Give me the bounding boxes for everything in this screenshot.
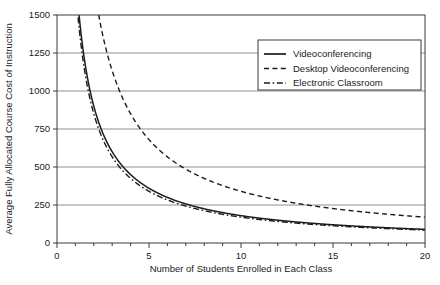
- legend-label-1: Desktop Videoconferencing: [293, 63, 409, 74]
- y-axis-tick-labels: 0250500750100012501500: [29, 9, 50, 248]
- x-tick-label: 10: [236, 250, 247, 261]
- y-tick-label: 1000: [29, 85, 50, 96]
- x-tick-label: 0: [54, 250, 59, 261]
- line-chart: 0250500750100012501500 05101520 Number o…: [0, 0, 440, 285]
- y-tick-label: 1250: [29, 47, 50, 58]
- x-axis-tick-labels: 05101520: [54, 250, 430, 261]
- legend-label-2: Electronic Classroom: [293, 77, 383, 88]
- y-tick-label: 0: [45, 237, 50, 248]
- legend: VideoconferencingDesktop Videoconferenci…: [258, 40, 421, 90]
- y-tick-label: 500: [34, 161, 50, 172]
- y-tick-label: 1500: [29, 9, 50, 20]
- y-tick-label: 750: [34, 123, 50, 134]
- chart-figure: 0250500750100012501500 05101520 Number o…: [0, 0, 440, 285]
- y-axis-ticks: [53, 15, 57, 243]
- x-tick-label: 20: [420, 250, 431, 261]
- legend-label-0: Videoconferencing: [293, 48, 372, 59]
- x-axis-title: Number of Students Enrolled in Each Clas…: [150, 263, 333, 274]
- y-axis-title: Average Fully Allocated Course Cost of I…: [3, 23, 14, 235]
- y-tick-label: 250: [34, 199, 50, 210]
- x-tick-label: 15: [328, 250, 339, 261]
- x-tick-label: 5: [146, 250, 151, 261]
